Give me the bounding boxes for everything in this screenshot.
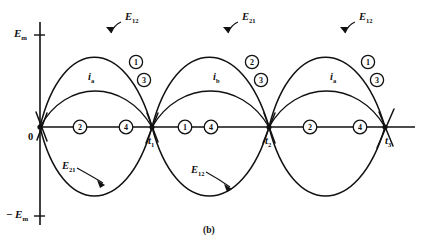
- axis-marker-3-1: 2: [303, 120, 317, 134]
- marker-label: 1: [366, 58, 370, 67]
- curve-marker-2-2: 3: [254, 73, 267, 86]
- y-axis-label-positive: Em: [14, 28, 27, 42]
- curve-label-lower-1-sub: 21: [69, 166, 76, 173]
- curve-label-upper-3-sub: 12: [366, 17, 373, 24]
- time-mark-t3-sub: 3: [388, 141, 391, 148]
- marker-label: 4: [124, 123, 128, 132]
- current-label-3: ia: [330, 72, 336, 85]
- current-label-1-sub: a: [91, 77, 94, 84]
- current-label-2-sub: b: [216, 77, 220, 84]
- current-lobe-3: [269, 91, 385, 127]
- time-mark-t2: t2: [265, 136, 271, 149]
- marker-label: 4: [209, 123, 213, 132]
- curve-label-upper-3: E12: [359, 12, 373, 25]
- curve-label-lower-2-sub: 12: [198, 170, 205, 177]
- axis-marker-1-1: 2: [73, 120, 87, 134]
- current-label-1: ia: [88, 72, 94, 85]
- minus-sign: −: [6, 208, 15, 220]
- curve-markers: 1 3 2 3 1 3: [129, 55, 383, 86]
- y-axis-label-negative: − Em: [6, 209, 28, 223]
- node-t3: [382, 124, 387, 129]
- curve-marker-3-1: 1: [361, 55, 374, 68]
- marker-label: 1: [183, 123, 187, 132]
- axis-marker-2-1: 1: [178, 120, 192, 134]
- curve-label-lower-1: E21: [62, 161, 76, 174]
- negative-voltage-lobes: [40, 127, 385, 196]
- current-lobe-1: [40, 91, 152, 127]
- node-origin: [37, 124, 42, 129]
- marker-label: 2: [250, 58, 254, 67]
- voltage-lobe-negative-3: [269, 127, 385, 196]
- leader-e12-bottom: [206, 172, 230, 187]
- curve-label-lower-2: E12: [191, 165, 205, 178]
- node-t1: [149, 124, 154, 129]
- time-mark-t2-sub: 2: [268, 141, 271, 148]
- time-mark-t1: t1: [148, 136, 154, 149]
- marker-label: 2: [308, 123, 312, 132]
- curve-label-lower-1-text: E: [62, 160, 69, 171]
- positive-voltage-lobes: [40, 57, 385, 127]
- curve-marker-2-1: 2: [245, 55, 258, 68]
- leader-e21-bottom: [77, 168, 103, 183]
- voltage-lobe-negative-2: [152, 127, 269, 196]
- curve-label-upper-3-text: E: [359, 11, 366, 22]
- curve-marker-3-2: 3: [370, 73, 383, 86]
- axis-marker-1-2: 4: [119, 120, 133, 134]
- waveform-svg: 1 3 2 3 1 3: [0, 0, 422, 243]
- waveform-figure: 1 3 2 3 1 3: [0, 0, 422, 243]
- curve-label-upper-2-sub: 21: [249, 17, 256, 24]
- time-mark-t3: t3: [385, 136, 391, 149]
- marker-label: 3: [375, 76, 379, 85]
- current-label-2: ib: [213, 72, 220, 85]
- origin-label: 0: [28, 131, 33, 142]
- axis-marker-2-2: 4: [204, 120, 218, 134]
- figure-caption: (b): [203, 225, 215, 235]
- curve-label-upper-2: E21: [242, 12, 256, 25]
- time-mark-t1-sub: 1: [151, 141, 154, 148]
- curve-label-upper-1-sub: 12: [132, 17, 139, 24]
- leader-lines: [77, 22, 355, 187]
- marker-label: 3: [259, 76, 263, 85]
- curve-marker-1-2: 3: [137, 73, 150, 86]
- marker-label: 3: [142, 76, 146, 85]
- axis-marker-3-2: 4: [353, 120, 367, 134]
- node-t2: [266, 124, 271, 129]
- marker-label: 4: [358, 123, 362, 132]
- curve-label-upper-1: E12: [125, 12, 139, 25]
- curve-label-upper-1-text: E: [125, 11, 132, 22]
- voltage-lobe-negative-1: [40, 127, 152, 196]
- marker-label: 2: [78, 123, 82, 132]
- y-axis-label-negative-sub: m: [22, 215, 28, 222]
- curve-marker-1-1: 1: [129, 55, 142, 68]
- current-label-3-sub: a: [333, 77, 336, 84]
- curve-label-upper-2-text: E: [242, 11, 249, 22]
- marker-label: 1: [134, 58, 138, 67]
- curve-label-lower-2-text: E: [191, 164, 198, 175]
- y-axis-label-positive-sub: m: [21, 34, 27, 41]
